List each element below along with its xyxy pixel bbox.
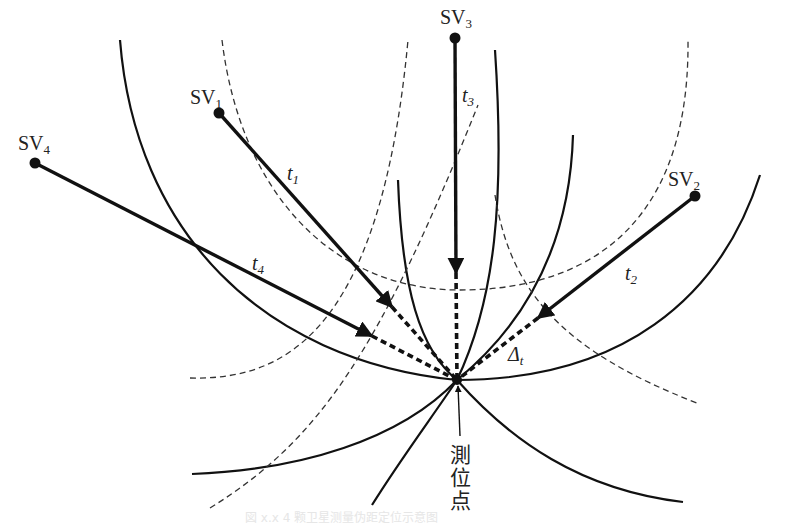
sv3-range-arrow	[455, 38, 456, 273]
receiver-pointer-arrow	[458, 386, 460, 436]
sv1-label: SV1	[190, 86, 222, 111]
lower-right-arc	[457, 380, 683, 502]
outer-right-arc	[457, 175, 760, 380]
receiver-label-char-3: 点	[450, 489, 471, 513]
sv4-label: SV4	[18, 132, 51, 157]
gnss-pseudorange-diagram: SV1 SV2 SV3 SV4 t1 t2 t3 t4 Δt 測 位 点 図 x…	[0, 0, 811, 527]
measured-ranges	[35, 38, 695, 336]
sv2-pseudo-arc	[495, 195, 697, 403]
sv3-bias-segment	[456, 273, 457, 380]
receiver-point-icon	[452, 375, 462, 385]
t3-label: t3	[462, 84, 475, 109]
sv4-satellite-icon	[30, 158, 41, 169]
lower-left-arc	[192, 380, 457, 474]
pseudo-range-arcs	[190, 40, 697, 508]
sv1-true-arc	[398, 180, 457, 380]
sv3-satellite-icon	[450, 33, 461, 44]
t1-label: t1	[287, 162, 299, 187]
sv2-label: SV2	[668, 168, 700, 193]
receiver-label-char-1: 測	[450, 443, 471, 467]
sv1-range-arrow	[219, 113, 392, 307]
sv3-label: SV3	[440, 6, 472, 31]
figure-caption: 図 x.x 4 颗卫星测量伪距定位示意图	[245, 510, 438, 525]
sv4-pseudo-arc	[190, 40, 408, 378]
sv4-range-arrow	[35, 163, 372, 336]
t2-label: t2	[625, 262, 638, 287]
t4-label: t4	[252, 252, 265, 277]
receiver-label-char-2: 位	[450, 466, 471, 490]
lower-mid-arc	[372, 380, 457, 505]
delta-t-label: Δt	[507, 343, 524, 368]
sv1-bias-segment	[392, 307, 457, 380]
